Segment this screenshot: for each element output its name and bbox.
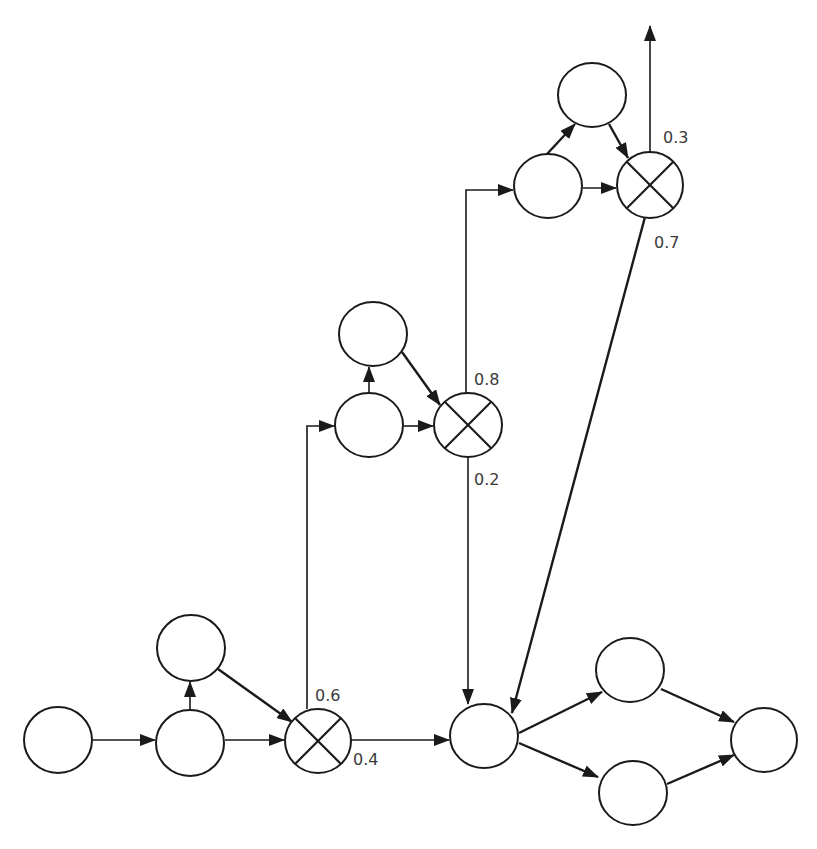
- edge-n6-n7: [547, 124, 575, 154]
- edge-n9-n11: [661, 689, 734, 722]
- edge-n10-n11: [667, 755, 734, 784]
- activity-node-n1[interactable]: [24, 707, 92, 773]
- probability-label-x3-up: 0.3: [663, 128, 688, 147]
- edge-n7-x3: [609, 124, 628, 158]
- activity-node-n9[interactable]: [596, 638, 664, 702]
- edge-x1-n4: [307, 426, 334, 709]
- probability-label-x2-up: 0.8: [474, 370, 499, 389]
- probability-label-x3-down: 0.7: [654, 233, 679, 252]
- xor-split-node-x1[interactable]: [285, 709, 351, 773]
- edge-n3-x1: [218, 669, 292, 722]
- activity-node-n5[interactable]: [339, 302, 407, 366]
- activity-node-n2[interactable]: [156, 710, 224, 776]
- probability-label-x2-down: 0.2: [474, 470, 499, 489]
- edge-x2-n6: [466, 190, 513, 393]
- activity-node-n11[interactable]: [731, 708, 797, 772]
- edge-n5-x2: [402, 352, 440, 405]
- probability-label-x1-right: 0.4: [353, 750, 378, 769]
- activity-node-n7[interactable]: [558, 63, 626, 127]
- activity-node-n3[interactable]: [157, 615, 225, 681]
- flow-diagram: 0.6 0.4 0.8 0.2 0.3 0.7: [0, 0, 817, 849]
- edge-n8-n10: [519, 743, 598, 777]
- activity-node-n10[interactable]: [599, 761, 667, 825]
- probability-label-x1-up: 0.6: [315, 686, 340, 705]
- activity-node-n8[interactable]: [450, 704, 518, 768]
- activity-node-n6[interactable]: [514, 154, 582, 218]
- nodes: [24, 63, 797, 825]
- edge-n8-n9: [519, 692, 602, 733]
- activity-node-n4[interactable]: [335, 393, 403, 457]
- xor-split-node-x3[interactable]: [617, 152, 683, 218]
- xor-split-node-x2[interactable]: [434, 393, 502, 457]
